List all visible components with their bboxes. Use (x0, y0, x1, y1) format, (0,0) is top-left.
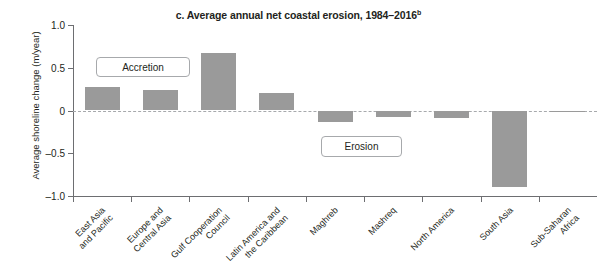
chart-title: c. Average annual net coastal erosion, 1… (0, 9, 597, 21)
y-axis-title: Average shoreline change (m/year) (30, 11, 41, 201)
x-axis-tick-mark (539, 196, 540, 202)
x-axis-category-label: North America (409, 205, 457, 253)
x-axis-line (73, 196, 597, 197)
x-axis-tick-mark (131, 196, 132, 202)
x-axis-category-label: East Asiaand Pacific (69, 205, 115, 251)
bar (492, 111, 527, 187)
plot-area: 1.00.50–0.5–1.0 (73, 25, 597, 196)
x-axis-category-label: Latin America andthe Caribbean (224, 205, 290, 271)
x-axis-category-label: Mashreq (366, 205, 398, 237)
y-axis-tick-mark (68, 68, 73, 69)
y-axis-tick-mark (68, 25, 73, 26)
y-axis-tick-label: –0.5 (46, 148, 65, 159)
bar (550, 111, 585, 113)
x-axis-category-label: Sub-SaharanAfrica (528, 205, 580, 257)
annotation-erosion-label: Erosion (345, 141, 379, 152)
y-axis-tick-label: –1.0 (46, 191, 65, 202)
x-axis-category-label: Gulf CooperationCouncil (168, 205, 231, 268)
x-axis-tick-mark (306, 196, 307, 202)
annotation-accretion-label: Accretion (122, 62, 164, 73)
annotation-accretion: Accretion (96, 57, 190, 77)
x-axis-category-label-line: South Asia (477, 205, 515, 243)
x-axis-tick-mark (73, 196, 74, 202)
x-axis-category-label-line: Mashreq (366, 205, 398, 237)
x-axis-tick-mark (189, 196, 190, 202)
y-axis-tick-label: 0 (59, 105, 65, 116)
annotation-erosion: Erosion (321, 136, 402, 157)
x-axis-category-label: South Asia (477, 205, 515, 243)
x-axis-category-label-line: Maghreb (308, 205, 341, 238)
chart-title-text: c. Average annual net coastal erosion, 1… (176, 9, 417, 21)
x-axis-tick-mark (481, 196, 482, 202)
x-axis-category-label: Maghreb (308, 205, 341, 238)
chart-figure: c. Average annual net coastal erosion, 1… (0, 0, 597, 277)
bar (201, 53, 236, 110)
bar (434, 111, 469, 119)
bar (259, 93, 294, 110)
bar (318, 111, 353, 123)
y-axis-tick-label: 1.0 (51, 20, 65, 31)
x-axis-category-label-line: North America (409, 205, 457, 253)
x-axis-tick-mark (248, 196, 249, 202)
x-axis-tick-mark (364, 196, 365, 202)
chart-title-footnote-marker: b (417, 9, 421, 16)
bar (85, 87, 120, 111)
bar (376, 111, 411, 118)
x-axis-tick-mark (422, 196, 423, 202)
bar (143, 90, 178, 111)
x-axis-category-label: Europe andCentral Asia (124, 205, 173, 254)
y-axis-tick-mark (68, 153, 73, 154)
y-axis-tick-label: 0.5 (51, 62, 65, 73)
